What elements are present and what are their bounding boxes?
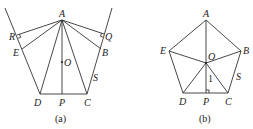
point-o-label: O: [64, 57, 71, 68]
point-q-label: Q: [105, 31, 113, 42]
point-p-label: P: [58, 97, 65, 108]
point-e-label: E: [159, 45, 166, 56]
point-e-label: E: [12, 47, 19, 58]
point-d-label: D: [178, 96, 187, 107]
figure-a: A R Q E B O S D P C (a): [5, 8, 113, 125]
segment-length-label: 1: [208, 73, 213, 84]
point-p-label: P: [202, 96, 209, 107]
point-c-label: C: [225, 96, 232, 107]
point-b-label: B: [243, 45, 249, 56]
point-b-label: B: [102, 47, 108, 58]
point-d-label: D: [33, 97, 42, 108]
point-s-label: S: [93, 72, 98, 83]
point-a-label: A: [202, 8, 210, 19]
point-c-label: C: [84, 97, 91, 108]
figure-b: A E B O 1 S D P C (b): [159, 8, 249, 125]
point-a-label: A: [58, 8, 66, 19]
point-s-label: S: [236, 71, 241, 82]
caption-a: (a): [55, 113, 66, 125]
point-r-label: R: [8, 31, 15, 42]
caption-b: (b): [199, 113, 211, 125]
point-o-label: O: [208, 51, 215, 62]
geometry-figures: A R Q E B O S D P C (a) A E B O 1 S D P …: [0, 0, 253, 129]
